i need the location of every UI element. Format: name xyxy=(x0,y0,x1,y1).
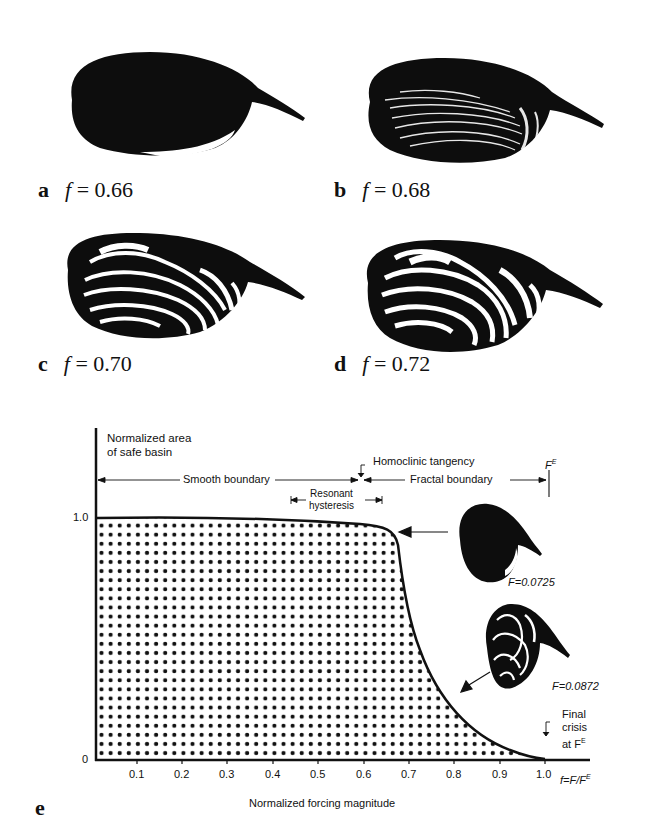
final-crisis-line1: Final xyxy=(562,708,587,721)
resonant-hysteresis-label: Resonant hysteresis xyxy=(309,488,354,512)
x-tick-0.9: 0.9 xyxy=(492,768,507,780)
inset2-label-text: F=0.0872 xyxy=(552,680,599,692)
final-crisis-line3: at FE xyxy=(562,734,587,751)
fe-label: FE xyxy=(545,455,556,472)
resonant-line2: hysteresis xyxy=(309,500,354,512)
panel-label-c: cf = 0.70 xyxy=(38,351,132,377)
x-axis-end-label: f=F/FE xyxy=(560,770,591,787)
fe-label-text: F xyxy=(545,459,552,471)
final-crisis-marker xyxy=(543,722,550,736)
y-axis-title: Normalized area of safe basin xyxy=(107,431,191,459)
safe-basin-chart xyxy=(95,428,590,764)
x-axis-end-text: f=F/F xyxy=(560,774,586,786)
inset1-label-text: F=0.0725 xyxy=(508,576,555,588)
panel-value-d: = 0.72 xyxy=(368,351,430,376)
inset2-label: F=0.0872 xyxy=(552,680,599,693)
panel-letter-a: a xyxy=(38,177,49,202)
inset1-label: F=0.0725 xyxy=(508,576,555,589)
figure-canvas xyxy=(0,0,648,839)
x-tick-0.5: 0.5 xyxy=(310,768,325,780)
panel-letter-c: c xyxy=(38,351,48,376)
panel-value-c: = 0.70 xyxy=(70,351,132,376)
x-tick-0.4: 0.4 xyxy=(265,768,280,780)
x-tick-0.6: 0.6 xyxy=(356,768,371,780)
basin-image-d xyxy=(367,240,603,352)
x-tick-0.7: 0.7 xyxy=(401,768,416,780)
inset-basin-f0725 xyxy=(459,504,542,583)
y-axis-title-line2: of safe basin xyxy=(107,445,191,459)
final-crisis-line2: crisis xyxy=(562,721,587,734)
final-crisis-label: Final crisis at FE xyxy=(562,708,587,751)
panel-letter-d: d xyxy=(334,351,346,376)
basin-image-c xyxy=(67,233,305,338)
fractal-boundary-label: Fractal boundary xyxy=(410,473,493,486)
panel-value-a: = 0.66 xyxy=(71,177,133,202)
basin-image-b xyxy=(368,58,604,163)
panel-label-b: bf = 0.68 xyxy=(334,177,430,203)
inset1-arrow xyxy=(399,527,448,537)
panel-value-b: = 0.68 xyxy=(368,177,430,202)
x-tick-0.8: 0.8 xyxy=(446,768,461,780)
x-axis-end-sup: E xyxy=(586,773,591,780)
inset-basin-f0872 xyxy=(486,604,570,689)
final-crisis-sup: E xyxy=(581,737,586,744)
basin-image-a xyxy=(71,52,305,157)
homoclinic-tangency-label: Homoclinic tangency xyxy=(373,455,475,468)
panel-letter-b: b xyxy=(334,177,346,202)
x-tick-0.3: 0.3 xyxy=(219,768,234,780)
smooth-boundary-label: Smooth boundary xyxy=(183,473,270,486)
x-tick-0.2: 0.2 xyxy=(174,768,189,780)
inset2-arrow xyxy=(461,672,490,692)
panel-label-d: df = 0.72 xyxy=(334,351,430,377)
resonant-line1: Resonant xyxy=(309,488,354,500)
x-axis-title: Normalized forcing magnitude xyxy=(249,797,395,810)
x-tick-0.1: 0.1 xyxy=(129,768,144,780)
y-tick-1: 1.0 xyxy=(73,511,88,523)
panel-label-a: af = 0.66 xyxy=(38,177,133,203)
fe-label-sup: E xyxy=(552,458,557,465)
y-tick-0: 0 xyxy=(82,753,88,765)
homoclinic-marker xyxy=(358,465,365,477)
final-crisis-line3-text: at F xyxy=(562,738,581,750)
y-axis-title-line1: Normalized area xyxy=(107,431,191,445)
panel-letter-e: e xyxy=(35,795,45,821)
x-tick-1.0: 1.0 xyxy=(536,768,551,780)
